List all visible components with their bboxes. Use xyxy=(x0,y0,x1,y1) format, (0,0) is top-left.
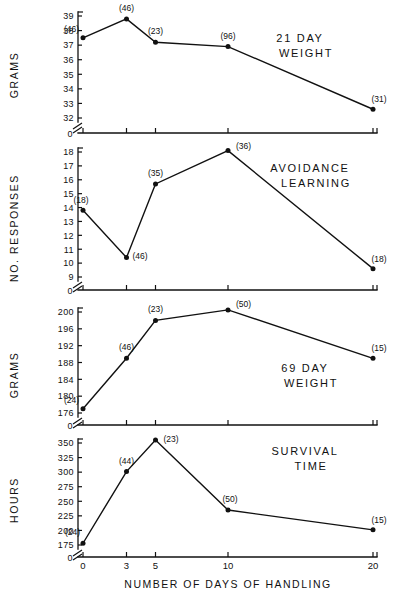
y-tick-label-2-9: 18 xyxy=(63,147,74,157)
data-point-3-0 xyxy=(81,406,86,411)
y-tick-label-1-2: 34 xyxy=(63,84,74,94)
point-label-2-2: (35) xyxy=(148,168,163,178)
y-zero-label-2: 0 xyxy=(68,286,73,296)
data-point-2-0 xyxy=(81,208,86,213)
panel-title-line1-2: AVOIDANCE xyxy=(270,162,349,174)
y-tick-label-4-4: 275 xyxy=(58,482,74,492)
x-tick-label-4: 20 xyxy=(368,560,379,571)
y-tick-label-4-7: 350 xyxy=(58,438,74,448)
y-tick-label-2-7: 16 xyxy=(63,175,74,185)
point-label-3-1: (46) xyxy=(119,342,134,352)
data-point-4-3 xyxy=(226,508,231,513)
y-tick-label-1-1: 33 xyxy=(63,99,74,109)
point-label-2-0: (18) xyxy=(73,195,88,205)
x-axis-caption: NUMBER OF DAYS OF HANDLING xyxy=(124,578,331,590)
y-zero-label-1: 0 xyxy=(68,129,73,139)
point-label-3-4: (15) xyxy=(371,343,386,353)
panel-title-line2-2: LEARNING xyxy=(281,177,351,189)
panel-2: 91011121314151617180(18)(46)(35)(36)(18)… xyxy=(8,141,387,296)
panel-title-line2-4: TIME xyxy=(294,460,327,472)
y-zero-label-3: 0 xyxy=(68,421,73,431)
x-tick-label-0: 0 xyxy=(80,560,85,571)
data-point-4-0 xyxy=(81,541,86,546)
y-axis-title-3: GRAMS xyxy=(8,352,20,399)
point-label-3-0: (24) xyxy=(64,395,79,405)
point-label-1-4: (31) xyxy=(371,94,386,104)
point-label-1-0: (46) xyxy=(64,24,79,34)
y-tick-label-1-5: 37 xyxy=(63,40,74,50)
point-label-1-1: (46) xyxy=(119,3,134,13)
data-point-1-1 xyxy=(124,16,129,21)
y-tick-label-2-3: 12 xyxy=(63,231,74,241)
y-tick-label-4-3: 250 xyxy=(58,497,74,507)
data-point-3-4 xyxy=(371,356,376,361)
data-point-1-3 xyxy=(226,44,231,49)
y-tick-label-3-3: 188 xyxy=(58,358,74,368)
y-axis-break-4 xyxy=(73,550,82,560)
y-tick-label-4-5: 300 xyxy=(58,467,74,477)
y-tick-label-3-4: 192 xyxy=(58,341,74,351)
data-point-2-2 xyxy=(153,181,158,186)
panel-3: 1761801841881921962000(24)(46)(23)(50)(1… xyxy=(8,299,387,431)
data-point-3-1 xyxy=(124,356,129,361)
y-axis-break-1 xyxy=(73,123,82,133)
y-tick-label-2-4: 13 xyxy=(63,217,74,227)
data-point-1-4 xyxy=(371,107,376,112)
y-zero-label-4: 0 xyxy=(68,553,73,563)
y-axis-break-3 xyxy=(73,418,82,428)
panel-title-line1-1: 21 DAY xyxy=(276,32,323,44)
y-tick-label-4-2: 225 xyxy=(58,511,74,521)
y-axis-title-4: HOURS xyxy=(8,477,20,523)
y-tick-label-2-6: 15 xyxy=(63,189,74,199)
y-tick-label-3-5: 196 xyxy=(58,324,74,334)
y-tick-label-2-1: 10 xyxy=(63,258,74,268)
data-point-2-1 xyxy=(124,255,129,260)
x-tick-label-3: 10 xyxy=(223,560,234,571)
y-tick-label-2-5: 14 xyxy=(63,203,74,213)
data-point-2-4 xyxy=(371,266,376,271)
point-label-3-2: (23) xyxy=(148,304,163,314)
data-point-2-3 xyxy=(226,148,231,153)
data-point-4-2 xyxy=(153,438,158,443)
point-label-3-3: (50) xyxy=(236,299,251,309)
data-point-4-1 xyxy=(124,469,129,474)
x-tick-label-2: 5 xyxy=(153,560,158,571)
point-label-1-3: (96) xyxy=(220,31,235,41)
data-point-4-4 xyxy=(371,527,376,532)
y-tick-label-2-2: 11 xyxy=(64,245,74,255)
y-tick-label-2-8: 17 xyxy=(63,161,74,171)
y-axis-title-1: GRAMS xyxy=(8,52,20,99)
point-label-4-0: (24) xyxy=(65,527,80,537)
point-label-4-4: (15) xyxy=(371,515,386,525)
figure-container: 32333435363738390(46)(46)(23)(96)(31)GRA… xyxy=(0,0,393,600)
point-label-1-2: (23) xyxy=(148,26,163,36)
data-point-1-2 xyxy=(153,40,158,45)
y-tick-label-1-7: 39 xyxy=(63,11,74,21)
x-tick-label-1: 3 xyxy=(124,560,129,571)
y-axis-title-2: NO. RESPONSES xyxy=(8,174,20,282)
point-label-4-2: (23) xyxy=(164,434,179,444)
point-label-4-3: (50) xyxy=(222,494,237,504)
data-point-1-0 xyxy=(81,35,86,40)
y-tick-label-2-0: 9 xyxy=(69,272,74,282)
y-tick-label-1-4: 36 xyxy=(63,55,74,65)
y-tick-label-3-6: 200 xyxy=(58,307,74,317)
y-tick-label-4-6: 325 xyxy=(58,453,74,463)
panel-title-line2-1: WEIGHT xyxy=(279,47,333,59)
y-tick-label-3-0: 176 xyxy=(58,408,74,418)
panel-1: 32333435363738390(46)(46)(23)(96)(31)GRA… xyxy=(8,3,387,139)
data-point-3-2 xyxy=(153,318,158,323)
multi-panel-line-chart: 32333435363738390(46)(46)(23)(96)(31)GRA… xyxy=(0,0,393,600)
panel-title-line2-3: WEIGHT xyxy=(284,377,338,389)
panel-title-line1-4: SURVIVAL xyxy=(272,445,339,457)
point-label-2-4: (18) xyxy=(371,254,386,264)
data-point-3-3 xyxy=(226,307,231,312)
y-tick-label-4-0: 175 xyxy=(58,540,74,550)
y-tick-label-3-2: 184 xyxy=(58,375,74,385)
point-label-4-1: (44) xyxy=(119,456,134,466)
point-label-2-3: (36) xyxy=(236,141,251,151)
panel-4: 1752002252502753003253500(24)(44)(23)(50… xyxy=(8,434,387,562)
panel-title-line1-3: 69 DAY xyxy=(281,362,328,374)
point-label-2-1: (46) xyxy=(133,251,148,261)
y-tick-label-1-0: 32 xyxy=(63,113,74,123)
